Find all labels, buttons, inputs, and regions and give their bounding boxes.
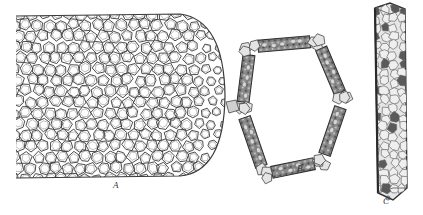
cell-wall-inner <box>147 32 155 40</box>
cell-wall-inner <box>167 20 175 28</box>
cell-wall-inner <box>46 66 55 75</box>
cell-wall-outer <box>207 165 216 175</box>
cell-wall-outer <box>202 174 212 184</box>
cell-wall-inner <box>177 85 185 94</box>
cell-wall-inner <box>160 53 168 62</box>
cell-wall-inner <box>80 86 89 95</box>
panel-c-prism-cell <box>369 3 410 200</box>
cell-wall-inner <box>63 54 71 62</box>
cell-wall-outer <box>67 173 79 184</box>
cell-wall-inner <box>35 86 44 94</box>
cell-wall-inner <box>189 108 197 116</box>
cell-wall-inner <box>149 119 157 127</box>
panel-a-cylinder <box>7 7 234 186</box>
cell-wall-inner <box>57 110 65 119</box>
cell-wall-outer <box>50 8 61 20</box>
cell-wall-inner <box>220 144 226 149</box>
cell-wall-inner <box>94 131 103 139</box>
cell-wall-inner <box>53 10 61 18</box>
cell-wall-inner <box>137 78 145 86</box>
ring-segment <box>237 54 255 103</box>
cell-wall-inner <box>173 97 181 106</box>
cell-wall-inner <box>152 42 161 51</box>
cell-wall-outer <box>92 62 104 74</box>
cell-wall-inner <box>27 141 35 150</box>
cell-granule <box>245 75 250 81</box>
cell-wall-inner <box>63 165 71 173</box>
cell-wall-inner <box>177 65 186 74</box>
cell-wall-inner <box>176 109 185 117</box>
cell-wall-inner <box>69 44 78 53</box>
cell-wall-inner <box>214 155 220 161</box>
cell-wall-inner <box>38 98 47 107</box>
cell-wall-inner <box>101 54 110 62</box>
cell-wall-inner <box>88 99 96 107</box>
cell-wall-inner <box>118 42 127 51</box>
cell-wall-inner <box>99 121 107 130</box>
cell-wall-inner <box>189 42 197 50</box>
cell-wall-inner <box>178 44 187 52</box>
cell-wall-outer <box>21 41 33 52</box>
cell-wall-inner <box>166 173 174 182</box>
cell-wall-inner <box>117 21 126 29</box>
cell-wall-inner <box>182 120 191 129</box>
cell-wall-inner <box>8 175 17 183</box>
cell-wall-inner <box>195 11 202 18</box>
cell-wall-inner <box>119 110 127 119</box>
cell-wall-inner <box>51 164 59 172</box>
panel-b-hexagonal-ring <box>226 34 353 184</box>
cell-wall-inner <box>111 141 119 149</box>
cell-wall-inner <box>123 53 131 61</box>
cell-wall-outer <box>33 151 44 163</box>
cell-granule <box>262 43 268 47</box>
cell-wall-inner <box>214 68 221 74</box>
cell-wall-inner <box>160 99 168 108</box>
cell-wall-inner <box>143 110 150 119</box>
cell-wall-inner <box>170 53 179 61</box>
cell-wall-inner <box>166 131 174 139</box>
cell-wall-inner <box>39 32 48 40</box>
cell-wall-inner <box>216 87 222 93</box>
cell-granule <box>279 42 285 46</box>
cell-wall-inner <box>21 21 29 29</box>
ring-segment <box>319 106 346 157</box>
cell-wall-inner <box>140 176 149 185</box>
cell-wall-inner <box>77 121 85 130</box>
cell-wall-inner <box>136 164 144 173</box>
cell-wall-inner <box>27 99 35 108</box>
cell-wall-inner <box>135 9 144 18</box>
cell-illustration <box>0 0 423 215</box>
cell-wall-inner <box>45 44 53 53</box>
cell-wall-inner <box>80 132 89 141</box>
cell-wall-inner <box>185 143 193 151</box>
cell-wall-outer <box>8 108 19 121</box>
cell-wall-inner <box>125 165 133 173</box>
cell-wall-inner <box>178 22 186 31</box>
cell-wall-inner <box>228 90 233 95</box>
honeycomb-cells <box>7 7 234 186</box>
cell-wall-inner <box>158 32 167 41</box>
panel-label-c: C <box>383 196 389 206</box>
cell-wall-inner <box>191 23 198 30</box>
cell-granule <box>297 39 303 43</box>
cell-wall-inner <box>220 33 226 39</box>
cell-wall-inner <box>106 110 114 118</box>
cell-wall-outer <box>45 128 58 139</box>
cell-wall-outer <box>213 154 222 162</box>
cell-granule <box>246 65 251 71</box>
cell-wall-inner <box>164 65 173 73</box>
cell-wall-inner <box>136 55 144 63</box>
cell-wall-inner <box>201 88 208 95</box>
cell-wall-outer <box>226 65 233 72</box>
cell-wall-inner <box>183 76 192 84</box>
cell-wall-inner <box>122 75 130 84</box>
cell-wall-inner <box>14 77 22 85</box>
cell-wall-inner <box>227 153 232 158</box>
cell-wall-inner <box>220 12 226 18</box>
cell-wall-inner <box>95 64 103 72</box>
granule-cell <box>373 184 381 193</box>
cell-wall-outer <box>20 62 33 74</box>
cell-wall-inner <box>93 153 103 162</box>
cell-wall-outer <box>226 45 232 52</box>
cell-wall-inner <box>70 154 78 162</box>
